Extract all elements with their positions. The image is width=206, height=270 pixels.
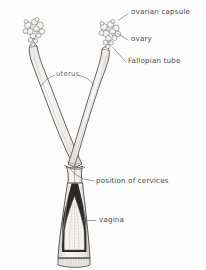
left-ovarian-capsule bbox=[23, 18, 45, 47]
anatomy-illustration bbox=[0, 0, 206, 270]
anatomy-figure: ovarian capsule ovary Fallopian tube ute… bbox=[0, 0, 206, 270]
leader-ovary bbox=[118, 34, 129, 41]
label-vagina: vagina bbox=[99, 216, 124, 223]
label-fallopian-tube: Fallopian tube bbox=[128, 57, 181, 64]
label-ovarian-capsule: ovarian capsule bbox=[131, 8, 190, 15]
leader-uterus-right bbox=[79, 76, 94, 86]
vagina bbox=[58, 183, 90, 267]
leader-fallopian-tube bbox=[113, 48, 126, 63]
right-uterine-horn bbox=[68, 47, 109, 167]
label-ovary: ovary bbox=[131, 35, 152, 42]
leader-ovarian-capsule bbox=[118, 14, 128, 21]
right-ovarian-capsule bbox=[99, 20, 121, 49]
label-uterus: uterus bbox=[56, 71, 79, 78]
label-position-of-cervices: position of cervices bbox=[96, 177, 169, 184]
